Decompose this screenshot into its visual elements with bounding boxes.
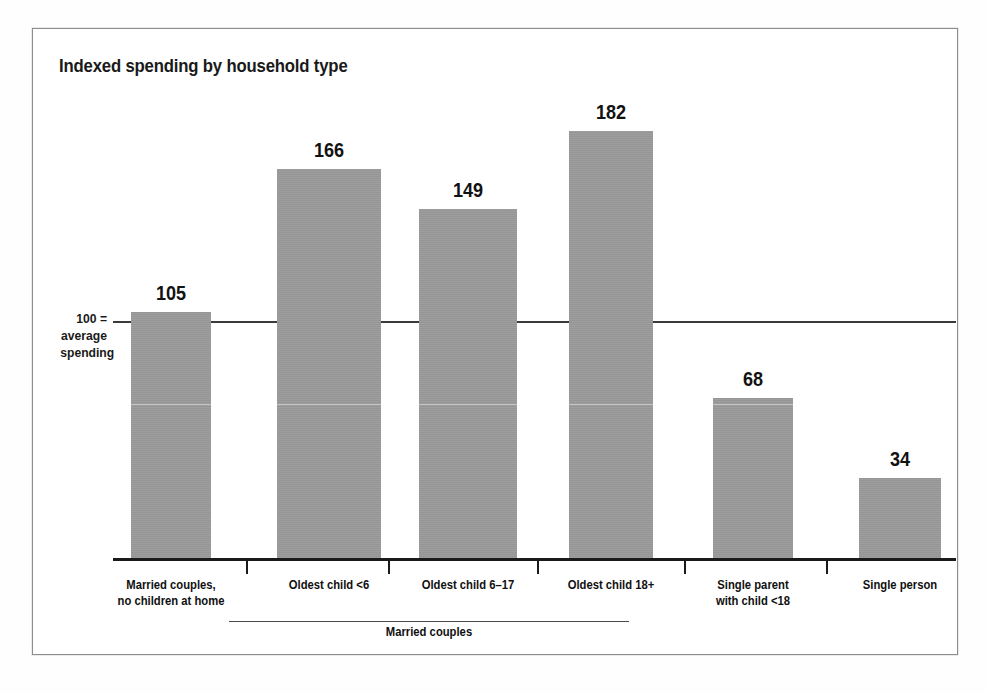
category-label-oldest-child-6-17: Oldest child 6–17: [405, 577, 531, 593]
category-label-line: Single parent: [697, 577, 809, 593]
axis-tick: [537, 561, 539, 574]
axis-baseline: [113, 558, 956, 561]
bar-oldest-child-6-17: [419, 209, 517, 558]
group-bracket-label: Married couples: [249, 625, 609, 639]
figure-root: Indexed spending by household type 100 =…: [0, 0, 986, 693]
bar-value-label: 149: [426, 178, 510, 202]
bar-scanline: [419, 404, 517, 405]
bar-value-label: 68: [719, 367, 788, 391]
bar-value-label: 166: [284, 138, 373, 162]
bar-oldest-child-18-plus: [569, 131, 653, 558]
category-label-single-parent: Single parent with child <18: [697, 577, 809, 609]
reference-line-100: [113, 321, 956, 323]
axis-tick: [826, 561, 828, 574]
bar-single-parent-child-under-18: [713, 398, 793, 558]
category-label-line: no children at home: [117, 593, 225, 609]
category-label-line: with child <18: [697, 593, 809, 609]
chart-frame: Indexed spending by household type 100 =…: [32, 28, 958, 655]
bar-scanline: [131, 404, 211, 405]
category-label-married-no-children: Married couples, no children at home: [117, 577, 225, 609]
bar-scanline: [277, 404, 381, 405]
category-label-line: Oldest child 18+: [548, 577, 674, 593]
category-label-oldest-child-under-6: Oldest child <6: [266, 577, 392, 593]
axis-tick: [388, 561, 390, 574]
bar-single-person: [859, 478, 941, 558]
category-label-single-person: Single person: [846, 577, 954, 593]
category-label-line: Oldest child <6: [266, 577, 392, 593]
category-label-line: Oldest child 6–17: [405, 577, 531, 593]
bar-scanline: [713, 404, 793, 405]
bar-value-label: 34: [865, 447, 936, 471]
bar-value-label: 182: [575, 100, 647, 124]
bar-married-no-children: [131, 312, 211, 558]
y-axis-label-line-1: 100 =: [60, 310, 107, 327]
y-axis-label-line-3: spending: [60, 344, 107, 361]
category-label-oldest-child-18-plus: Oldest child 18+: [548, 577, 674, 593]
axis-tick: [246, 561, 248, 574]
bar-value-label: 105: [137, 281, 206, 305]
y-axis-label: 100 = average spending: [60, 310, 107, 361]
category-label-line: Single person: [846, 577, 954, 593]
bar-scanline: [569, 404, 653, 405]
bar-oldest-child-under-6: [277, 169, 381, 558]
axis-tick: [684, 561, 686, 574]
plot-area: 100 = average spending 105 166 149: [33, 29, 959, 656]
group-bracket-rule: [229, 621, 629, 622]
y-axis-label-line-2: average: [60, 327, 107, 344]
category-label-line: Married couples,: [117, 577, 225, 593]
